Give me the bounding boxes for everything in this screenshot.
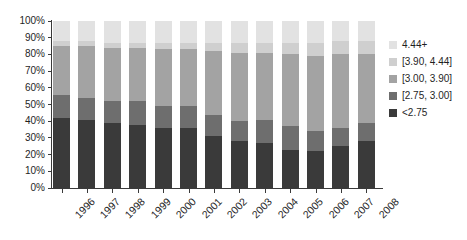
bar-segment (231, 43, 248, 53)
bar-segment (180, 106, 197, 128)
x-axis-tick-mark (316, 189, 317, 193)
bar-segment (307, 43, 324, 56)
bar-segment (307, 151, 324, 188)
x-axis-tick-mark (366, 189, 367, 193)
x-axis-tick-mark (290, 189, 291, 193)
bar-segment (307, 56, 324, 131)
bar-segment (282, 21, 299, 43)
bar-segment (104, 101, 121, 123)
x-axis-tick-mark (239, 189, 240, 193)
bar-segment (231, 141, 248, 188)
bar-segment (307, 131, 324, 151)
bar-segment (332, 21, 349, 41)
x-axis-tick-label: 1997 (98, 196, 122, 220)
x-axis-tick-mark (189, 189, 190, 193)
y-axis-tick-label: 30% (25, 133, 48, 143)
y-axis-tick-label: 90% (25, 33, 48, 43)
x-axis-tick-label: 1996 (72, 196, 96, 220)
bar-segment (256, 120, 273, 143)
bar-segment (231, 21, 248, 43)
legend-label: <2.75 (402, 108, 427, 118)
bar-2000 (155, 21, 172, 188)
legend-swatch-icon (389, 58, 397, 66)
bar-2002 (205, 21, 222, 188)
bar-2008 (358, 21, 375, 188)
bar-2007 (332, 21, 349, 188)
bar-segment (180, 43, 197, 50)
bar-2005 (282, 21, 299, 188)
x-axis-tick-label: 2002 (225, 196, 249, 220)
y-axis-tick-label: 0% (31, 183, 48, 193)
bar-segment (104, 48, 121, 101)
x-axis-tick-mark (138, 189, 139, 193)
bar-segment (104, 123, 121, 188)
bar-segment (231, 121, 248, 141)
y-axis-tick-label: 20% (25, 150, 48, 160)
x-axis-tick-label: 1999 (149, 196, 173, 220)
bar-1997 (78, 21, 95, 188)
legend-item: [3.00, 3.90] (389, 72, 452, 86)
x-axis-tick-mark (62, 189, 63, 193)
stacked-bar-chart: 0%10%20%30%40%50%60%70%80%90%100% 199619… (0, 0, 467, 240)
bar-segment (256, 21, 273, 43)
bar-segment (104, 21, 121, 43)
legend-item: <2.75 (389, 106, 452, 120)
bar-segment (53, 46, 70, 94)
x-axis-tick-mark (214, 189, 215, 193)
bar-segment (129, 101, 146, 124)
plot-area (52, 21, 382, 188)
x-axis-tick-label: 2003 (250, 196, 274, 220)
legend-swatch-icon (389, 92, 397, 100)
bar-segment (205, 115, 222, 137)
x-axis-tick-label: 2006 (326, 196, 350, 220)
bar-segment (282, 126, 299, 149)
x-axis-tick-mark (87, 189, 88, 193)
bar-segment (180, 49, 197, 106)
bar-segment (358, 141, 375, 188)
bar-segment (256, 143, 273, 188)
x-axis-tick-label: 2005 (301, 196, 325, 220)
bar-segment (53, 118, 70, 188)
bar-segment (78, 120, 95, 188)
y-axis-tick-label: 70% (25, 66, 48, 76)
bar-segment (155, 21, 172, 43)
bar-segment (332, 41, 349, 54)
bar-segment (53, 21, 70, 41)
legend-swatch-icon (389, 75, 397, 83)
bar-segment (78, 98, 95, 120)
bar-1998 (104, 21, 121, 188)
y-axis-tick-label: 10% (25, 166, 48, 176)
bar-segment (53, 95, 70, 118)
x-axis-tick-label: 2001 (199, 196, 223, 220)
bar-segment (129, 21, 146, 43)
x-axis-tick-label: 2004 (276, 196, 300, 220)
bar-2003 (231, 21, 248, 188)
bar-segment (155, 106, 172, 128)
x-axis-tick-mark (112, 189, 113, 193)
legend-label: 4.44+ (402, 40, 427, 50)
legend-item: [2.75, 3.00] (389, 89, 452, 103)
bar-segment (358, 21, 375, 41)
bar-segment (256, 53, 273, 120)
bar-segment (332, 54, 349, 127)
bar-2001 (180, 21, 197, 188)
y-axis-tick-label: 80% (25, 49, 48, 59)
bar-segment (282, 150, 299, 188)
legend-label: [3.90, 4.44] (402, 57, 452, 67)
x-axis-tick-label: 2007 (352, 196, 376, 220)
bar-segment (155, 49, 172, 106)
x-axis-tick-mark (265, 189, 266, 193)
bar-segment (256, 43, 273, 53)
bar-segment (205, 43, 222, 51)
y-axis-tick-label: 50% (25, 100, 48, 110)
legend-item: 4.44+ (389, 38, 452, 52)
bar-segment (180, 128, 197, 188)
legend-label: [2.75, 3.00] (402, 91, 452, 101)
bar-2004 (256, 21, 273, 188)
bar-segment (78, 46, 95, 98)
bar-segment (129, 125, 146, 188)
x-axis-tick-label: 2000 (174, 196, 198, 220)
y-axis-tick-label: 60% (25, 83, 48, 93)
bar-1999 (129, 21, 146, 188)
bar-segment (155, 128, 172, 188)
